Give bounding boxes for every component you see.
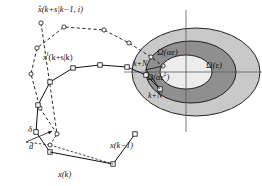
trajectory-marker (35, 46, 39, 50)
label-omega-alpha-eps-squared: Ω(αε2) (147, 72, 169, 81)
trajectory-marker (62, 25, 66, 29)
trajectory-marker (34, 130, 38, 134)
label-delta: δ (28, 125, 32, 134)
label-omega-alpha-eps: Ω(αε) (157, 48, 178, 57)
trajectory-marker (39, 21, 43, 25)
state-marker-xk-minus-1 (133, 132, 137, 136)
label-state-k-minus-1: x(k−1) (110, 141, 133, 150)
trajectory-marker (98, 63, 102, 67)
label-predicted-trajectory: x̂(k+s|k−1, i) (38, 5, 83, 14)
label-omega-ae2-base: Ω(αε (147, 72, 164, 82)
trajectory-marker (48, 80, 52, 84)
trajectory-marker (102, 28, 106, 32)
label-omega-eps: Ω(ε) (206, 61, 222, 70)
trajectory-marker (71, 66, 75, 70)
diagram-canvas (0, 0, 262, 186)
trajectory-marker (149, 55, 153, 59)
label-omega-ae2-close: ) (166, 72, 169, 82)
trajectory-marker (36, 103, 40, 107)
label-state-k: x(k) (58, 170, 71, 179)
d-anchor-marker (48, 143, 52, 147)
label-d: d (29, 142, 33, 151)
d-to-xk-link (50, 145, 113, 164)
label-horizon-lower: k+N (148, 92, 162, 100)
trajectory-marker (29, 72, 33, 76)
label-horizon-upper: k+N (133, 60, 147, 68)
trajectory-marker (127, 41, 131, 45)
label-feasible-rest: (k+s|k) (49, 52, 73, 62)
label-feasible-trajectory: xf(k+s|k) (43, 52, 73, 61)
trajectory-marker (125, 65, 129, 69)
